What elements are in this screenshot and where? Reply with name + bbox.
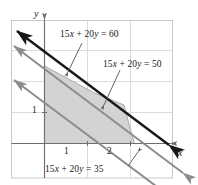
- leader-line-eq60: [68, 43, 82, 72]
- x-tick-label-2: 2: [107, 146, 112, 156]
- x-tick-label-1: 1: [64, 146, 69, 156]
- annotation-equation-50: 15x + 20y = 50: [103, 59, 162, 69]
- figure-canvas: [0, 0, 198, 185]
- feasible-region-shading: [45, 66, 135, 144]
- linear-programming-figure: 15x + 20y = 60 15x + 20y = 50 15x + 20y …: [0, 0, 198, 185]
- y-tick-label-1: 1: [32, 105, 37, 115]
- annotation-equation-35: 15x + 20y = 35: [45, 164, 104, 174]
- annotation-equation-60: 15x + 20y = 60: [60, 29, 119, 39]
- leader-line-eq35: [128, 152, 138, 166]
- y-axis-label: y: [34, 8, 38, 19]
- x-axis-label: x: [178, 147, 182, 158]
